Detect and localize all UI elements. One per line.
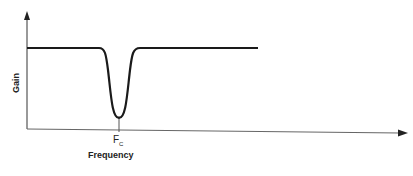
y-axis-label: Gain — [11, 69, 21, 97]
y-axis-arrow-icon — [24, 11, 30, 20]
x-axis-label: Frequency — [88, 150, 134, 160]
axes — [24, 11, 408, 137]
gain-curve — [27, 48, 258, 118]
fc-label-sub: C — [119, 141, 123, 147]
notch-filter-diagram — [0, 0, 413, 176]
x-axis-arrow-icon — [398, 130, 408, 137]
fc-label: FC — [113, 134, 123, 147]
x-axis — [27, 129, 400, 133]
